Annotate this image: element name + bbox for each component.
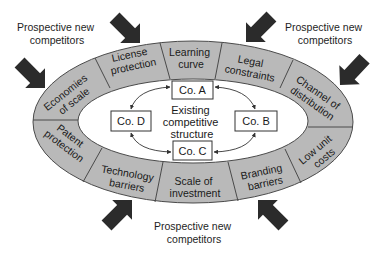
double-headed-curved-arrow-icon bbox=[131, 87, 170, 109]
barrier-scale-of-investment: Scale of investment bbox=[170, 175, 221, 199]
entrants-label-top-left: Prospective new competitors bbox=[17, 21, 97, 46]
company-c: Co. C bbox=[173, 141, 212, 160]
svg-text:Co. C: Co. C bbox=[178, 145, 206, 157]
entrants-label-top-right: Prospective new competitors bbox=[285, 21, 365, 46]
barriers-to-entry-diagram: Economies of scale License protection Le… bbox=[0, 0, 383, 257]
company-a: Co. A bbox=[172, 81, 213, 99]
company-d: Co. D bbox=[111, 111, 151, 131]
existing-competitive-structure-label: Existing competitive structure bbox=[163, 104, 222, 140]
double-headed-curved-arrow-icon bbox=[131, 133, 171, 152]
company-b: Co. B bbox=[235, 111, 277, 131]
svg-text:Co. A: Co. A bbox=[179, 84, 207, 96]
svg-text:Co. D: Co. D bbox=[117, 115, 145, 127]
double-headed-curved-arrow-icon bbox=[214, 133, 255, 152]
svg-text:Co. B: Co. B bbox=[242, 115, 270, 127]
double-headed-curved-arrow-icon bbox=[215, 87, 255, 109]
svg-text:Scale of investment: Scale of investment bbox=[170, 175, 221, 199]
entrants-label-bottom: Prospective new competitors bbox=[154, 220, 234, 245]
